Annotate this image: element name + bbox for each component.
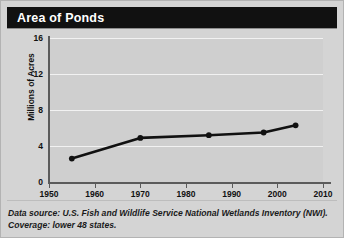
footnote-line-1: Data source: U.S. Fish and Wildlife Serv… [8, 208, 301, 218]
data-point [69, 156, 75, 162]
plot-container: Millions of Acres 0481216 19501960197019… [7, 28, 339, 194]
data-point [137, 135, 143, 141]
data-point [261, 130, 267, 136]
data-point [206, 132, 212, 138]
chart-figure: Area of Ponds Millions of Acres 0481216 … [0, 0, 344, 238]
footnote: Data source: U.S. Fish and Wildlife Serv… [8, 207, 336, 231]
footnote-divider [7, 200, 337, 201]
series-layer [7, 28, 339, 194]
chart-title-bar: Area of Ponds [7, 7, 337, 28]
page-title: Area of Ponds [17, 11, 104, 25]
data-point [293, 122, 299, 128]
